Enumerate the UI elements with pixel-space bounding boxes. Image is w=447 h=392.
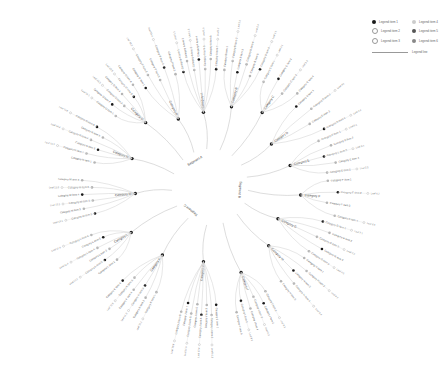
child-label: Category G item 3 bbox=[319, 236, 340, 249]
legend-dot-icon bbox=[372, 28, 378, 34]
legend-dot-icon bbox=[412, 39, 416, 43]
leaf-node-icon bbox=[61, 187, 63, 189]
legend-item: Legend item 3 bbox=[372, 38, 406, 44]
child-link bbox=[278, 219, 317, 237]
leaf-node-icon bbox=[237, 30, 239, 32]
branch-link bbox=[248, 190, 301, 195]
child-link bbox=[160, 80, 178, 119]
leaf-label: Leaf 2.2 bbox=[237, 19, 242, 29]
ring-gap bbox=[228, 153, 230, 155]
leaf-label: Leaf 1.1 bbox=[173, 30, 178, 40]
leaf-label: Leaf 3.1 bbox=[277, 44, 284, 54]
child-label: Category J item 3 bbox=[204, 307, 209, 328]
child-node-icon bbox=[308, 123, 311, 126]
branch-label: Category C bbox=[263, 94, 276, 110]
leaf-label: Leaf 5.3 bbox=[356, 144, 366, 149]
child-node-icon bbox=[328, 232, 331, 235]
branch-link bbox=[237, 214, 269, 246]
branch-link bbox=[203, 225, 207, 262]
child-node-icon bbox=[116, 258, 119, 261]
child-label: Category E item 1 bbox=[320, 129, 341, 141]
child-label: Category M item 3 bbox=[68, 199, 90, 205]
child-label: Category C item 2 bbox=[278, 57, 293, 77]
child-node-icon bbox=[196, 303, 199, 306]
child-label: Category B item 2 bbox=[231, 37, 239, 59]
child-label: Category D item 4 bbox=[326, 116, 347, 129]
leaf-node-icon bbox=[313, 305, 315, 307]
leaf-node-icon bbox=[299, 69, 301, 71]
leaf-node-icon bbox=[132, 48, 134, 50]
child-node-icon bbox=[102, 236, 105, 239]
child-label: Category F item 3 bbox=[330, 201, 352, 208]
child-node-icon bbox=[249, 307, 252, 310]
branch-link bbox=[220, 107, 232, 150]
child-link bbox=[290, 166, 327, 174]
legend-line-icon bbox=[372, 52, 408, 53]
leaf-node-icon bbox=[57, 145, 59, 147]
child-label: Category A item 6 bbox=[208, 35, 212, 56]
leaf-link bbox=[153, 39, 164, 67]
leaf-label: Leaf 10.4 bbox=[197, 347, 201, 358]
child-label: Category I item 6 bbox=[236, 315, 244, 336]
child-node-icon bbox=[292, 269, 295, 272]
leaf-link bbox=[323, 221, 352, 230]
child-node-icon bbox=[159, 79, 162, 82]
branch-link bbox=[162, 218, 188, 255]
leaf-label: Leaf 4.4 bbox=[353, 108, 363, 115]
legend-item: Legend item 2 bbox=[372, 28, 406, 34]
leaf-node-icon bbox=[248, 329, 250, 331]
leaf-node-icon bbox=[328, 290, 330, 292]
legend-dot-icon bbox=[372, 38, 378, 44]
leaf-label: Leaf 13.3 bbox=[50, 203, 61, 207]
child-node-icon bbox=[295, 105, 298, 108]
leaf-label: Leaf 8.4 bbox=[314, 308, 322, 317]
leaf-node-icon bbox=[91, 97, 93, 99]
child-label: Category M item 4 bbox=[58, 192, 80, 197]
child-node-icon bbox=[262, 302, 265, 305]
leaf-node-icon bbox=[189, 39, 191, 41]
child-node-icon bbox=[198, 58, 201, 61]
child-label: Category D item 3 bbox=[311, 109, 331, 124]
leaf-node-icon bbox=[198, 344, 200, 346]
branch-link bbox=[223, 223, 241, 273]
leaf-node-icon bbox=[69, 112, 71, 114]
branch-link bbox=[247, 166, 290, 178]
leaf-node-icon bbox=[62, 203, 64, 205]
leaf-link bbox=[311, 90, 335, 108]
branch-link bbox=[178, 119, 194, 153]
child-node-icon bbox=[321, 248, 324, 251]
leaf-node-icon bbox=[350, 114, 352, 116]
child-node-icon bbox=[111, 103, 114, 106]
leaf-label: Leaf 7.3 bbox=[346, 250, 356, 257]
radial-tree-diagram: Category ACategory A item 1Leaf 1.1Categ… bbox=[0, 0, 447, 392]
leaf-node-icon bbox=[351, 229, 353, 231]
leaf-label: Leaf 12.6 bbox=[51, 246, 62, 253]
child-label: Category M item 6 bbox=[58, 177, 80, 182]
child-label: Category J item 5 bbox=[193, 307, 199, 328]
leaf-label: Leaf 15.3 bbox=[92, 75, 102, 84]
child-label: Category N item 2 bbox=[63, 145, 85, 154]
leaf-label: Leaf 1.5 bbox=[202, 27, 205, 36]
child-link bbox=[95, 159, 132, 164]
legend-dot-icon bbox=[412, 29, 416, 33]
branch-link bbox=[203, 112, 207, 149]
child-node-icon bbox=[83, 207, 86, 210]
leaf-label: Leaf 6.2 bbox=[371, 192, 380, 195]
child-node-icon bbox=[249, 75, 252, 78]
leaf-node-icon bbox=[63, 245, 65, 247]
leaf-node-icon bbox=[211, 344, 213, 346]
child-label: Category J item 1 bbox=[215, 308, 220, 329]
child-node-icon bbox=[223, 69, 226, 72]
leaf-label: Leaf 11.1 bbox=[136, 320, 143, 331]
leaf-link bbox=[92, 98, 116, 116]
leaf-node-icon bbox=[334, 89, 336, 91]
child-label: Category M item 1 bbox=[71, 212, 93, 221]
legend: Legend item 1 Legend item 4 Legend item … bbox=[372, 20, 447, 54]
child-node-icon bbox=[303, 257, 306, 260]
branch-label: Category K bbox=[149, 256, 162, 272]
branch-label: Category B bbox=[230, 87, 238, 103]
leaf-node-icon bbox=[333, 267, 335, 269]
child-label: Category P item 5 bbox=[167, 51, 177, 73]
leaf-node-icon bbox=[345, 128, 347, 130]
leaf-label: Leaf 11.3 bbox=[120, 312, 128, 322]
